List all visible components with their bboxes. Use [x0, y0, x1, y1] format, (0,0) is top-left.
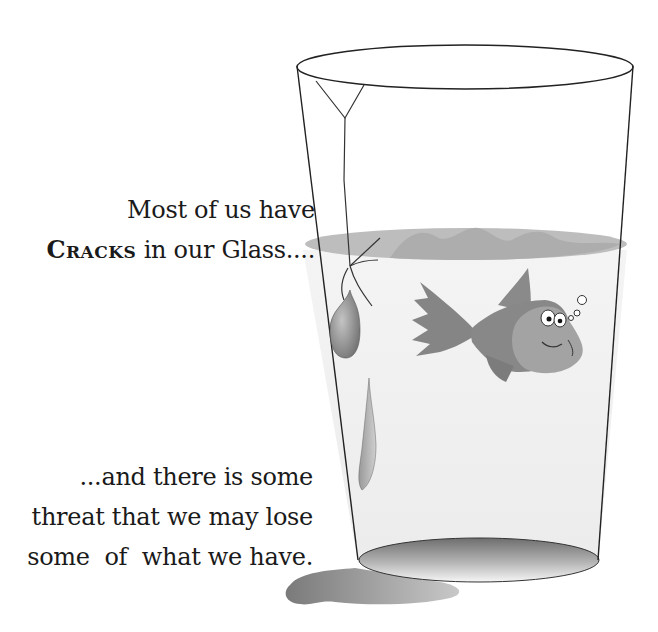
caption-bottom: ...and there is some threat that we may … — [27, 457, 313, 577]
glass-base — [359, 538, 599, 582]
caption-bottom-line-2: threat that we may lose — [27, 497, 313, 537]
caption-top-line-2-rest: in our Glass.... — [136, 236, 315, 264]
caption-bottom-line-3: some of what we have. — [27, 537, 313, 577]
caption-top-line-2: Cracks in our Glass.... — [46, 230, 315, 270]
caption-top-line-1: Most of us have — [46, 190, 315, 230]
cracks-emphasis: Cracks — [46, 235, 136, 264]
caption-bottom-line-1: ...and there is some — [27, 457, 313, 497]
caption-top: Most of us have Cracks in our Glass.... — [46, 190, 315, 270]
